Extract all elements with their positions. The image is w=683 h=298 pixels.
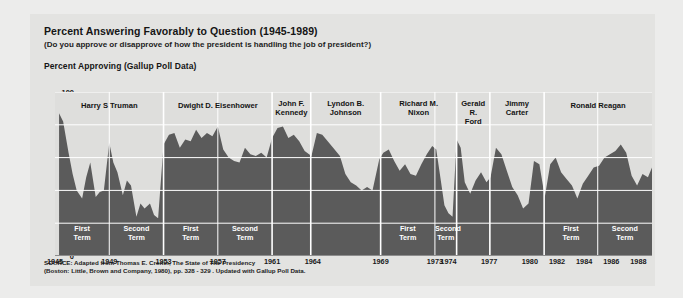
term-label: FirstTerm (164, 225, 218, 242)
label-line: Gerald R. (457, 99, 490, 117)
page-title: Percent Answering Favorably to Question … (44, 25, 318, 37)
label-line: Kennedy (272, 108, 311, 117)
label-line: Jimmy (490, 99, 544, 108)
x-tick-1977: 1977 (476, 257, 502, 266)
plot-wrapper: 020406080100 Harry S TrumanDwight D. Eis… (55, 78, 652, 256)
president-label-ronald-reagan: Ronald Reagan (544, 101, 652, 110)
label-line: Carter (490, 108, 544, 117)
source-line-1: SOURCE: Adapted from Thomas E. Cronin, T… (44, 259, 306, 267)
label-line: Term (435, 234, 457, 243)
label-line: Lyndon B. (311, 99, 381, 108)
label-line: Ford (457, 117, 490, 126)
y-axis-title: Percent Approving (Gallup Poll Data) (44, 61, 197, 71)
term-label: FirstTerm (55, 225, 109, 242)
label-line: Term (218, 234, 272, 243)
label-line: Term (381, 234, 435, 243)
source-note: SOURCE: Adapted from Thomas E. Cronin, T… (44, 259, 306, 275)
label-line: Term (55, 234, 109, 243)
x-tick-1984: 1984 (571, 257, 597, 266)
term-label: SecondTerm (598, 225, 652, 242)
x-tick-1988: 1988 (625, 257, 651, 266)
x-tick-1986: 1986 (598, 257, 624, 266)
label-line: John F. (272, 99, 311, 108)
label-line: Nixon (381, 108, 457, 117)
president-label-john-f-kennedy: John F.Kennedy (272, 99, 311, 117)
label-line: Johnson (311, 108, 381, 117)
label-line: Richard M. (381, 99, 457, 108)
president-label-richard-m-nixon: Richard M.Nixon (381, 99, 457, 117)
chart-subtitle: (Do you approve or disapprove of how the… (44, 40, 371, 49)
term-label: FirstTerm (381, 225, 435, 242)
chart-card: Percent Answering Favorably to Question … (30, 14, 655, 286)
x-tick-1969: 1969 (368, 257, 394, 266)
label-line: Term (598, 234, 652, 243)
term-label: FirstTerm (544, 225, 598, 242)
president-label-dwight-d-eisenhower: Dwight D. Eisenhower (164, 101, 273, 110)
label-line: Term (544, 234, 598, 243)
term-label: SecondTerm (435, 225, 457, 242)
x-tick-1982: 1982 (544, 257, 570, 266)
x-tick-1974: 1974 (435, 257, 461, 266)
label-line: Term (164, 234, 218, 243)
president-label-lyndon-b-johnson: Lyndon B.Johnson (311, 99, 381, 117)
president-label-harry-s-truman: Harry S Truman (55, 101, 164, 110)
president-label-jimmy-carter: JimmyCarter (490, 99, 544, 117)
x-tick-1980: 1980 (517, 257, 543, 266)
chart-page: Percent Answering Favorably to Question … (0, 0, 683, 298)
president-label-gerald-r-ford: Gerald R.Ford (457, 99, 490, 127)
term-label: SecondTerm (109, 225, 163, 242)
label-line: Term (109, 234, 163, 243)
source-line-2: (Boston: Little, Brown and Company, 1980… (44, 267, 306, 275)
term-label: SecondTerm (218, 225, 272, 242)
